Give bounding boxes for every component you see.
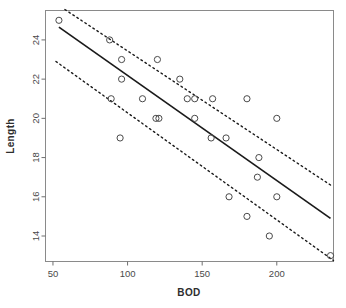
y-tick-label: 22 — [30, 74, 41, 85]
y-tick-label: 14 — [30, 231, 41, 242]
y-tick-label: 24 — [30, 35, 41, 46]
x-tick-label: 200 — [269, 268, 285, 279]
x-tick-label: 100 — [120, 268, 136, 279]
x-tick-label: 150 — [194, 268, 210, 279]
scatter-plot-figure: 141618202224 50100150200 BOD Length — [0, 0, 346, 308]
plot-canvas: 141618202224 50100150200 BOD Length — [0, 0, 346, 308]
y-axis-title: Length — [5, 118, 16, 154]
x-tick-label: 50 — [48, 268, 59, 279]
y-tick-label: 16 — [30, 192, 41, 203]
x-axis-title: BOD — [177, 287, 200, 298]
y-tick-label: 20 — [30, 113, 41, 124]
y-tick-label: 18 — [30, 152, 41, 163]
